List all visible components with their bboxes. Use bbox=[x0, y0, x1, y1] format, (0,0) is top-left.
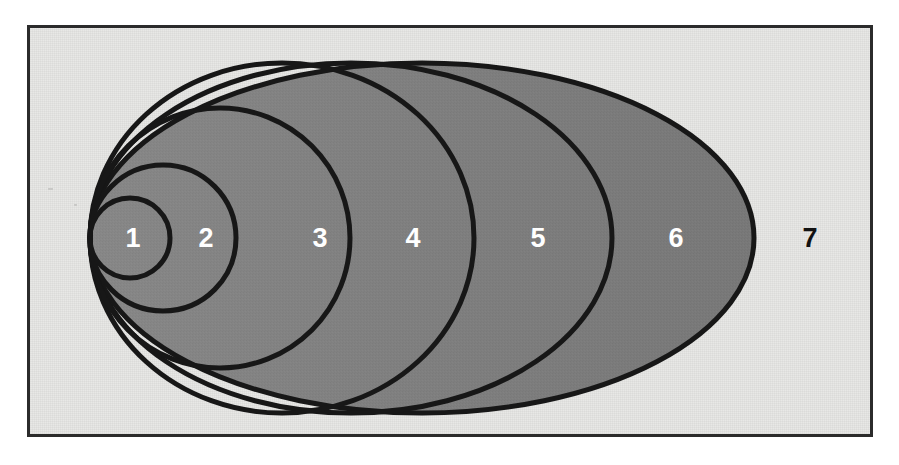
ring-label-6: 6 bbox=[668, 223, 683, 253]
figure-root: 1 2 3 4 5 6 7 bbox=[0, 0, 899, 465]
ring-label-4: 4 bbox=[405, 223, 420, 253]
ring-label-5: 5 bbox=[530, 223, 545, 253]
figure-plate: 1 2 3 4 5 6 7 bbox=[27, 25, 873, 437]
nested-ellipses-diagram: 1 2 3 4 5 6 7 bbox=[30, 28, 870, 434]
ring-label-7: 7 bbox=[802, 223, 817, 253]
ring-label-2: 2 bbox=[198, 223, 213, 253]
ring-label-3: 3 bbox=[312, 223, 327, 253]
ring-label-1: 1 bbox=[125, 223, 140, 253]
